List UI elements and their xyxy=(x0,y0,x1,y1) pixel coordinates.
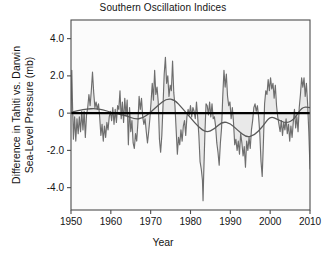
x-tick-label: 1980 xyxy=(179,216,202,227)
y-axis-title-line1: Difference in Tahiti vs. Darwin xyxy=(10,46,22,184)
y-tick-label: 0 xyxy=(58,108,64,119)
y-tick-label: 4.0 xyxy=(50,33,64,44)
x-tick-label: 1960 xyxy=(100,216,123,227)
chart-plot: 4.02.00-2.0-4.0 195019601970198019902000… xyxy=(0,0,326,255)
x-tick-label: 2000 xyxy=(259,216,282,227)
x-axis-title: Year xyxy=(0,236,326,248)
x-tick-label: 1970 xyxy=(140,216,163,227)
x-tick-label: 2010 xyxy=(299,216,322,227)
x-tick-label: 1950 xyxy=(60,216,83,227)
caption-text xyxy=(8,249,288,254)
caption-strip xyxy=(8,249,288,254)
y-axis-title-line2: Sea-Level Pressure (mb) xyxy=(23,57,35,174)
y-tick-label: -2.0 xyxy=(47,145,65,156)
x-tick-label: 1990 xyxy=(219,216,242,227)
y-tick-label: -4.0 xyxy=(47,182,65,193)
x-axis-ticks: 1950196019701980199020002010 xyxy=(60,210,322,227)
y-axis-ticks: 4.02.00-2.0-4.0 xyxy=(47,33,71,193)
chart-figure: Southern Oscillation Indices 4.02.00-2.0… xyxy=(0,0,326,255)
y-tick-label: 2.0 xyxy=(50,70,64,81)
